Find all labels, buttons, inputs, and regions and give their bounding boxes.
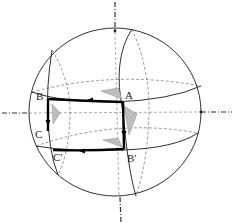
shade-near-B — [52, 104, 60, 124]
path-Bprime-to-Cprime — [53, 149, 124, 150]
label-B-prime: B′ — [127, 152, 137, 164]
shade-near-Bprime — [103, 138, 122, 147]
diagram-stage: A B C B′ C′ — [0, 0, 232, 223]
label-C-prime: C′ — [53, 151, 63, 163]
label-B: B — [36, 90, 43, 102]
arrow-B-C — [46, 120, 51, 126]
north-pole-dot — [114, 30, 117, 33]
vertical-axis-bottom — [120, 197, 121, 223]
label-C: C — [35, 128, 42, 140]
shade-near-A-right — [124, 106, 137, 135]
sphere-diagram: A B C B′ C′ — [0, 0, 232, 223]
shade-near-A-top — [101, 88, 122, 99]
path-A-to-B — [48, 99, 123, 102]
label-A: A — [125, 89, 133, 101]
vertical-axis-inner — [115, 32, 119, 195]
path-A-to-Bprime — [123, 102, 124, 149]
